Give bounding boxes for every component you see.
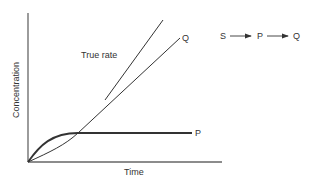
x-axis-label: Time: [124, 167, 144, 177]
reaction-scheme: S P Q: [220, 31, 300, 41]
progress-curve-diagram: True rate Q P Time Concentration S P Q: [0, 0, 314, 184]
true-rate-line: [105, 20, 163, 100]
true-rate-label: True rate: [81, 50, 117, 60]
scheme-p: P: [257, 31, 263, 41]
p-label: P: [195, 128, 201, 138]
p-curve: [28, 133, 192, 162]
scheme-q: Q: [293, 31, 300, 41]
scheme-s: S: [220, 31, 226, 41]
y-axis-label: Concentration: [11, 62, 21, 118]
q-label: Q: [182, 33, 189, 43]
